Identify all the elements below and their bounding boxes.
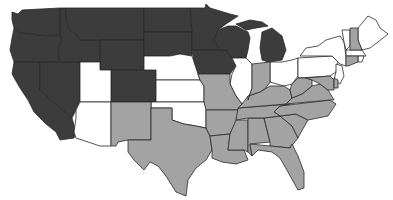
state-RI[interactable] xyxy=(358,56,364,62)
state-WA[interactable] xyxy=(12,8,60,36)
state-CT[interactable] xyxy=(346,56,358,66)
state-SD[interactable] xyxy=(144,32,192,56)
state-WY[interactable] xyxy=(100,40,144,70)
state-MA[interactable] xyxy=(346,50,366,56)
state-ND[interactable] xyxy=(144,8,192,32)
state-CO[interactable] xyxy=(111,70,156,102)
state-DE[interactable] xyxy=(334,78,338,88)
state-KS[interactable] xyxy=(156,80,204,102)
state-MT[interactable] xyxy=(66,8,144,40)
state-ME[interactable] xyxy=(358,16,388,50)
us-choropleth-map xyxy=(0,0,393,200)
state-NM[interactable] xyxy=(111,102,151,146)
state-AZ[interactable] xyxy=(74,102,111,146)
state-FL[interactable] xyxy=(250,144,304,190)
state-PA[interactable] xyxy=(298,56,338,78)
